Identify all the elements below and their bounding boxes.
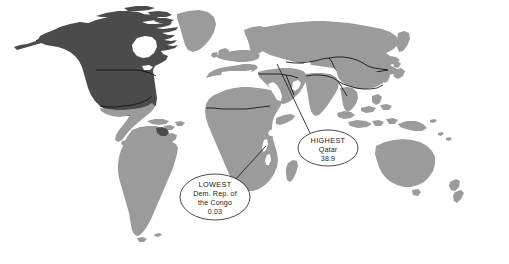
lowest-value: 0.03	[208, 208, 222, 216]
highest-country: Qatar	[319, 146, 338, 154]
lowest-label: LOWEST	[199, 180, 232, 189]
lowest-country-line2: the Congo	[198, 199, 232, 207]
lowest-country-line1: Dem. Rep. of	[193, 190, 237, 198]
world-map-figure: LOWEST Dem. Rep. of the Congo 0.03 HIGHE…	[0, 0, 509, 264]
world-map-canvas: LOWEST Dem. Rep. of the Congo 0.03 HIGHE…	[0, 0, 509, 264]
highest-value: 38.9	[321, 155, 335, 163]
highest-label: HIGHEST	[311, 136, 346, 145]
